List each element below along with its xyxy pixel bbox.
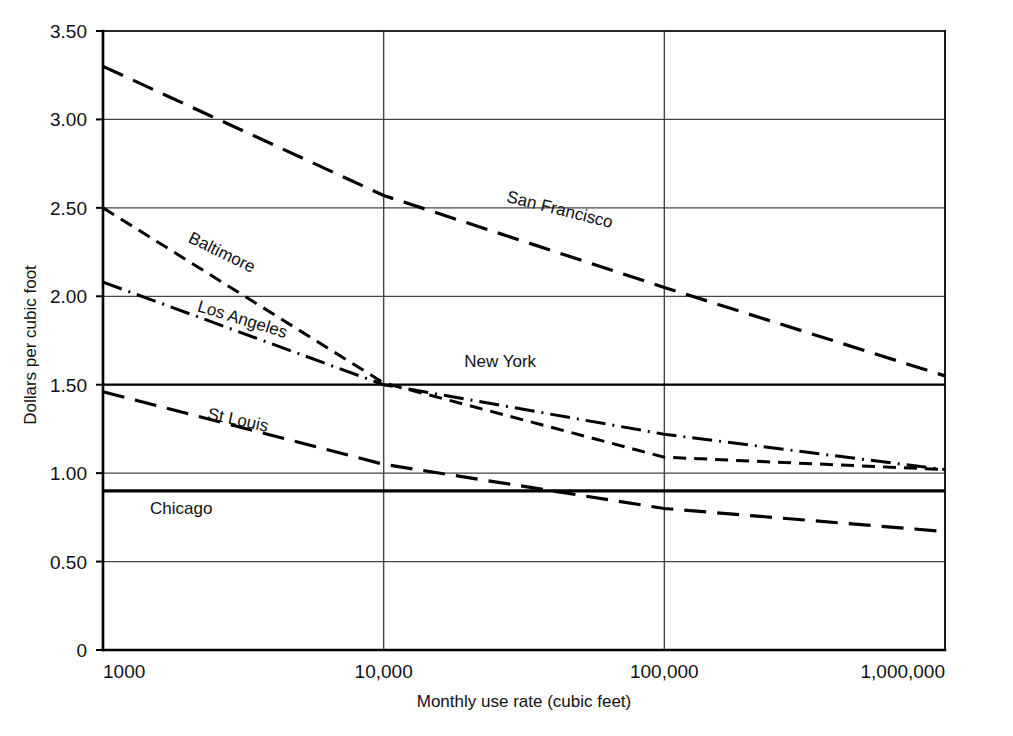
x-tick-label: 1000 bbox=[103, 661, 145, 682]
y-tick-label: 1.50 bbox=[50, 375, 87, 396]
x-tick-label: 10,000 bbox=[355, 661, 413, 682]
y-tick-label: 0.50 bbox=[50, 552, 87, 573]
y-tick-label: 3.50 bbox=[50, 21, 87, 42]
y-tick-label: 2.50 bbox=[50, 198, 87, 219]
y-axis-title: Dollars per cubic foot bbox=[21, 265, 40, 425]
x-axis-title: Monthly use rate (cubic feet) bbox=[417, 692, 631, 711]
y-tick-label: 3.00 bbox=[50, 109, 87, 130]
series-label-new-york: New York bbox=[464, 352, 536, 371]
chart-page: 00.501.001.502.002.503.003.50 100010,000… bbox=[0, 0, 1013, 736]
x-tick-label: 1,000,000 bbox=[860, 661, 945, 682]
y-tick-label: 1.00 bbox=[50, 463, 87, 484]
x-tick-label: 100,000 bbox=[630, 661, 699, 682]
y-tick-label: 2.00 bbox=[50, 286, 87, 307]
line-chart: 00.501.001.502.002.503.003.50 100010,000… bbox=[0, 0, 1013, 736]
y-tick-label: 0 bbox=[76, 640, 87, 661]
series-label-chicago: Chicago bbox=[150, 499, 212, 518]
